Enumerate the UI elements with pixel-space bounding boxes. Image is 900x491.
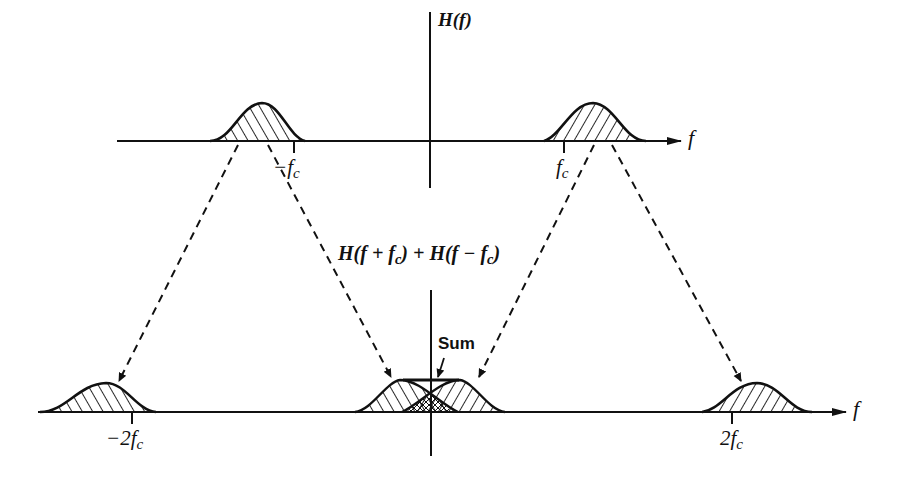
arrow-top-left-to-bottom-left <box>119 145 238 381</box>
top-panel <box>117 12 681 188</box>
sum-pointer-arrow <box>438 358 444 377</box>
top-left-pulse <box>210 103 305 141</box>
tick-label-pos-fc: fc <box>556 157 569 181</box>
tick-label-neg-fc-sub: c <box>293 165 300 181</box>
tick-label-neg-2fc-sub: c <box>137 436 144 452</box>
sum-label: Sum <box>438 335 475 352</box>
middle-sum-expression: H(f + fc) + H(f − fc) <box>338 243 500 266</box>
tick-label-pos-2fc-main: 2f <box>720 426 736 450</box>
arrow-top-right-to-bottom-right <box>612 145 741 381</box>
bottom-axis-label-f: f <box>853 398 859 420</box>
expr-part3: ) <box>493 242 500 264</box>
tick-label-neg-fc: −fc <box>273 157 300 181</box>
expr-part2: ) + H(f − f <box>401 242 487 264</box>
tick-label-neg-fc-main: −f <box>273 155 293 179</box>
tick-label-pos-2fc: 2fc <box>720 428 743 452</box>
expr-part1: H(f + f <box>338 242 395 264</box>
top-right-pulse <box>544 103 646 141</box>
tick-label-neg-2fc-main: −2f <box>106 426 137 450</box>
bottom-left-pulse <box>40 383 156 412</box>
tick-label-pos-fc-sub: c <box>562 165 569 181</box>
bottom-right-pulse <box>702 383 812 412</box>
top-axis-label-f: f <box>688 127 694 149</box>
tick-label-neg-2fc: −2fc <box>106 428 143 452</box>
vertical-axis-label-hf: H(f) <box>438 10 472 29</box>
tick-label-pos-2fc-sub: c <box>736 436 743 452</box>
